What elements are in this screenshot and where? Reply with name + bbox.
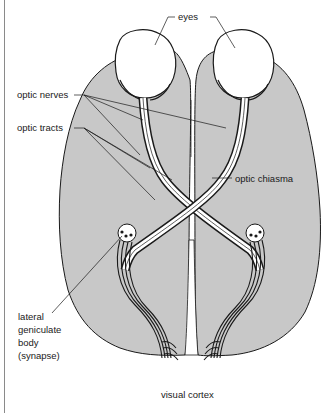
label-eyes: eyes (178, 11, 198, 23)
label-lgb-line3: body (18, 337, 39, 349)
label-optic-chiasma: optic chiasma (235, 173, 293, 185)
brain-right-hemisphere (195, 49, 321, 356)
label-lgb-line2: geniculate (18, 324, 61, 336)
label-lgb-line4: (synapse) (18, 350, 60, 362)
left-lateral-geniculate-body (118, 224, 136, 242)
label-lgb-line1: lateral (18, 311, 44, 323)
label-visual-cortex: visual cortex (161, 389, 214, 401)
label-optic-tracts: optic tracts (17, 122, 63, 134)
right-lateral-geniculate-body (246, 224, 264, 242)
label-optic-nerves: optic nerves (17, 89, 68, 101)
